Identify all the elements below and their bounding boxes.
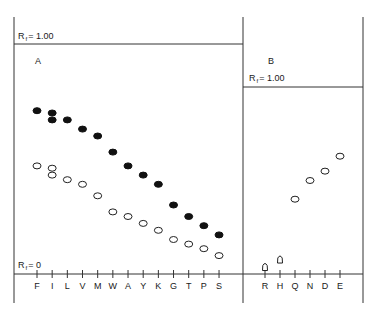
open-circle-marker xyxy=(63,177,71,183)
x-tick-label: H xyxy=(273,281,287,291)
filled-circle-marker xyxy=(200,223,208,229)
filled-circle-marker xyxy=(185,214,193,220)
open-circle-marker xyxy=(291,196,299,202)
x-tick-label: F xyxy=(30,281,44,291)
triangle-marker xyxy=(278,256,283,263)
x-axis-ticks xyxy=(37,270,340,278)
x-tick-label: L xyxy=(60,281,74,291)
x-tick-label: N xyxy=(303,281,317,291)
open-circle-marker xyxy=(109,209,117,215)
filled-circle-marker xyxy=(94,133,102,139)
x-tick-label: G xyxy=(167,281,181,291)
filled-circle-marker xyxy=(170,202,178,208)
open-circle-marker xyxy=(200,246,208,252)
filled-circle-marker xyxy=(124,163,132,169)
open-circle-marker xyxy=(321,168,329,174)
filled-circle-marker xyxy=(109,149,117,155)
open-circle-marker xyxy=(336,153,344,159)
plot-svg xyxy=(0,0,380,315)
x-tick-label: K xyxy=(151,281,165,291)
open-circle-marker xyxy=(33,163,41,169)
x-tick-label: Y xyxy=(136,281,150,291)
x-tick-label: S xyxy=(212,281,226,291)
panel-b-label: B xyxy=(268,56,274,66)
filled-circle-marker xyxy=(154,181,162,187)
x-tick-label: R xyxy=(258,281,272,291)
chromatography-figure: Rf= 1.00 A Rf= 0 B Rf= 1.00 FILVMWAYKGTP… xyxy=(0,0,380,315)
open-circle-marker xyxy=(170,237,178,243)
x-tick-label: Q xyxy=(288,281,302,291)
x-tick-label: I xyxy=(45,281,59,291)
x-tick-label: D xyxy=(318,281,332,291)
x-tick-label: T xyxy=(182,281,196,291)
filled-circle-marker xyxy=(33,108,41,114)
open-circle-marker xyxy=(79,181,87,187)
x-tick-label: W xyxy=(106,281,120,291)
open-circle-marker xyxy=(124,214,132,220)
x-tick-label: V xyxy=(76,281,90,291)
filled-circle-marker xyxy=(139,172,147,178)
filled-circle-marker xyxy=(79,126,87,132)
open-circle-marker xyxy=(94,193,102,199)
open-circle-marker xyxy=(48,172,56,178)
open-circle-marker xyxy=(185,241,193,247)
x-tick-label: P xyxy=(197,281,211,291)
filled-circle-marker xyxy=(215,232,223,238)
open-circle-marker xyxy=(139,220,147,226)
panel-b-rf1-label: Rf= 1.00 xyxy=(249,73,284,84)
x-tick-label: M xyxy=(91,281,105,291)
x-tick-label: E xyxy=(333,281,347,291)
filled-circle-marker xyxy=(48,117,56,123)
filled-circle-marker xyxy=(48,110,56,116)
open-circle-marker xyxy=(215,253,223,259)
x-tick-label: A xyxy=(121,281,135,291)
panel-a-label: A xyxy=(35,56,41,66)
panel-a-rf0-label: Rf= 0 xyxy=(18,260,41,271)
open-circle-marker xyxy=(154,227,162,233)
data-markers xyxy=(33,108,344,271)
open-circle-marker xyxy=(306,178,314,184)
panel-a-rf1-label: Rf= 1.00 xyxy=(18,31,53,42)
open-circle-marker xyxy=(48,165,56,171)
triangle-marker xyxy=(263,264,268,271)
filled-circle-marker xyxy=(63,117,71,123)
